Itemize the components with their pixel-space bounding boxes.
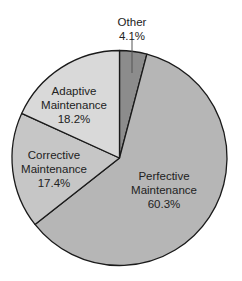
label-other-name: Other [118,15,147,29]
label-perfective-value: 60.3% [131,197,197,211]
label-adaptive-name: Adaptive [41,84,107,98]
label-other: Other 4.1% [118,15,147,43]
label-corrective-value: 17.4% [21,176,87,190]
label-corrective: Corrective Maintenance 17.4% [21,148,87,190]
label-other-value: 4.1% [118,29,147,43]
label-adaptive: Adaptive Maintenance 18.2% [41,84,107,126]
label-perfective-name-2: Maintenance [131,183,197,197]
label-adaptive-value: 18.2% [41,112,107,126]
label-corrective-name: Corrective [21,148,87,162]
label-perfective: Perfective Maintenance 60.3% [131,169,197,211]
label-perfective-name: Perfective [131,169,197,183]
label-corrective-name-2: Maintenance [21,162,87,176]
label-adaptive-name-2: Maintenance [41,98,107,112]
